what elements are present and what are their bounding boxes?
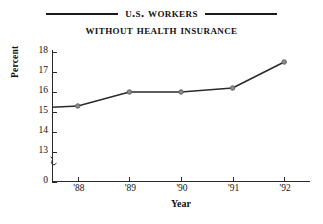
- series-line-lead: [52, 106, 78, 107]
- y-tick-label: 15: [39, 106, 49, 116]
- data-point-marker: [179, 90, 184, 95]
- x-tick-label: '91: [228, 184, 239, 194]
- x-tick-label: '90: [176, 184, 187, 194]
- data-point-marker: [127, 90, 132, 95]
- data-series: [52, 50, 310, 182]
- y-tick-label: 13: [39, 146, 49, 156]
- y-tick-label: 18: [39, 46, 49, 56]
- y-tick: 0: [52, 182, 57, 183]
- x-axis-label: Year: [52, 198, 310, 209]
- x-tick-label: '89: [125, 184, 136, 194]
- y-axis-label: Percent: [10, 46, 20, 78]
- series-line: [78, 62, 284, 106]
- x-tick-label: '92: [280, 184, 291, 194]
- axes: 1817161514130 '88'89'90'91'92: [52, 50, 310, 182]
- chart-figure: U.S. Workers Without Health Insurance Pe…: [0, 0, 323, 224]
- x-tick-label: '88: [73, 184, 84, 194]
- data-point-marker: [230, 86, 235, 91]
- plot-area: Percent 1817161514130 '88'89'90'91'92 Ye…: [0, 0, 323, 224]
- data-point-marker: [282, 60, 287, 65]
- data-point-marker: [76, 104, 81, 109]
- y-tick-label: 16: [39, 86, 49, 96]
- y-tick-label: 14: [39, 126, 49, 136]
- y-tick-label: 17: [39, 66, 49, 76]
